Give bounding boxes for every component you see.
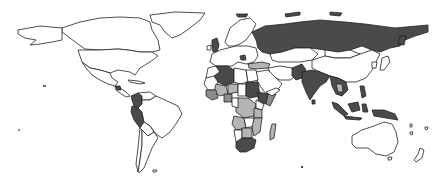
region-madagascar[interactable] <box>270 124 276 140</box>
region-fiji[interactable] <box>425 127 428 130</box>
world-map <box>0 0 446 183</box>
region-severnaya[interactable] <box>330 12 342 16</box>
region-australia[interactable] <box>352 122 398 156</box>
region-borneo[interactable] <box>348 102 360 112</box>
region-nigeria[interactable] <box>224 94 232 102</box>
region-guatemala[interactable] <box>116 86 121 90</box>
region-alaska[interactable] <box>18 26 62 45</box>
region-egypt[interactable] <box>246 70 258 82</box>
region-botswana[interactable] <box>242 128 252 138</box>
region-cameroon[interactable] <box>232 98 238 108</box>
region-philippines[interactable] <box>360 86 366 98</box>
region-falklands[interactable] <box>153 170 157 172</box>
region-tasmania[interactable] <box>388 157 392 160</box>
region-papua-new-guinea[interactable] <box>372 110 398 120</box>
region-sumatra[interactable] <box>332 102 348 116</box>
region-sulawesi[interactable] <box>362 104 368 112</box>
region-tanzania[interactable] <box>254 108 262 118</box>
region-korea[interactable] <box>372 62 377 68</box>
region-sri-lanka[interactable] <box>312 100 315 104</box>
island-dot <box>43 85 46 87</box>
region-new-zealand[interactable] <box>414 148 424 162</box>
island-dot <box>18 129 20 131</box>
region-vanuatu[interactable] <box>410 132 413 135</box>
region-niger[interactable] <box>228 84 238 94</box>
region-mozambique[interactable] <box>252 118 262 136</box>
region-greenland[interactable] <box>150 12 205 38</box>
region-novaya-zemlya[interactable] <box>285 12 300 17</box>
island-dot <box>301 166 303 168</box>
region-caribbean[interactable] <box>128 80 145 84</box>
region-java[interactable] <box>344 116 362 120</box>
map-svg <box>0 0 446 183</box>
region-ireland[interactable] <box>207 45 211 50</box>
region-south-africa[interactable] <box>236 138 256 152</box>
region-west-africa[interactable] <box>206 90 218 100</box>
region-chad[interactable] <box>238 84 246 96</box>
region-united-kingdom[interactable] <box>212 38 219 52</box>
region-solomon-islands[interactable] <box>410 124 412 127</box>
region-svalbard[interactable] <box>236 14 248 17</box>
region-japan[interactable] <box>380 56 390 70</box>
region-dr-congo[interactable] <box>236 98 256 118</box>
region-india[interactable] <box>302 70 330 100</box>
region-balkans[interactable] <box>240 55 246 60</box>
region-scandinavia[interactable] <box>225 18 256 46</box>
region-canada[interactable] <box>62 17 160 52</box>
